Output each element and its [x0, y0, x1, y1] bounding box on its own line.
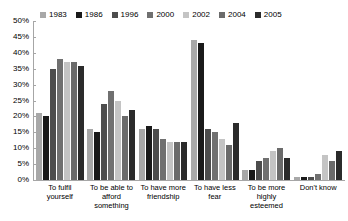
- y-axis-tick-label: 5%: [0, 160, 29, 168]
- bar[interactable]: [277, 148, 283, 180]
- bar[interactable]: [294, 177, 300, 180]
- bar[interactable]: [160, 139, 166, 180]
- legend-item-label: 2004: [228, 11, 246, 19]
- bars-layer: [34, 21, 344, 180]
- legend-swatch-icon: [219, 12, 225, 18]
- bar[interactable]: [191, 40, 197, 180]
- chart-legend: 1983198619962000200220042005: [40, 9, 340, 21]
- bar-group: [137, 21, 189, 180]
- bar[interactable]: [308, 177, 314, 180]
- bar[interactable]: [181, 142, 187, 180]
- bar[interactable]: [129, 110, 135, 180]
- legend-swatch-icon: [183, 12, 189, 18]
- legend-item[interactable]: 2004: [219, 11, 246, 19]
- bar[interactable]: [87, 129, 93, 180]
- legend-item-label: 2005: [264, 11, 282, 19]
- bar[interactable]: [270, 151, 276, 180]
- bar[interactable]: [146, 126, 152, 180]
- bar[interactable]: [219, 139, 225, 180]
- bar[interactable]: [284, 158, 290, 180]
- bar[interactable]: [242, 170, 248, 180]
- bar[interactable]: [57, 59, 63, 180]
- x-axis-category-label: To have more friendship: [137, 183, 189, 201]
- y-axis-tick-label: 15%: [0, 128, 29, 136]
- bar[interactable]: [249, 170, 255, 180]
- bar[interactable]: [212, 132, 218, 180]
- bar[interactable]: [263, 158, 269, 180]
- bar-group: [189, 21, 241, 180]
- bar-group: [292, 21, 344, 180]
- bar[interactable]: [167, 142, 173, 180]
- bar[interactable]: [174, 142, 180, 180]
- bar[interactable]: [101, 104, 107, 180]
- legend-item[interactable]: 2005: [255, 11, 282, 19]
- y-axis-tick-label: 20%: [0, 112, 29, 120]
- x-axis: To fulfil yourselfTo be able to afford s…: [34, 183, 344, 221]
- bar-chart: 1983198619962000200220042005 50%45%40%35…: [0, 0, 348, 221]
- legend-swatch-icon: [40, 12, 46, 18]
- bar[interactable]: [205, 129, 211, 180]
- legend-swatch-icon: [76, 12, 82, 18]
- bar[interactable]: [71, 62, 77, 180]
- y-axis: 50%45%40%35%30%25%20%15%10%5%0%: [0, 16, 29, 186]
- y-axis-tick-label: 30%: [0, 81, 29, 89]
- legend-swatch-icon: [255, 12, 261, 18]
- legend-item-label: 2000: [156, 11, 174, 19]
- bar-group: [241, 21, 293, 180]
- bar[interactable]: [108, 91, 114, 180]
- legend-item[interactable]: 2002: [183, 11, 210, 19]
- bar[interactable]: [94, 132, 100, 180]
- bar[interactable]: [301, 177, 307, 180]
- bar[interactable]: [36, 113, 42, 180]
- bar[interactable]: [64, 62, 70, 180]
- y-axis-tick-label: 25%: [0, 97, 29, 105]
- y-axis-tick-label: 50%: [0, 17, 29, 25]
- legend-item[interactable]: 1983: [40, 11, 67, 19]
- bar[interactable]: [329, 161, 335, 180]
- legend-item-label: 2002: [192, 11, 210, 19]
- x-axis-category-label: To fulfil yourself: [34, 183, 86, 201]
- bar[interactable]: [315, 174, 321, 180]
- legend-item-label: 1986: [85, 11, 103, 19]
- bar[interactable]: [256, 161, 262, 180]
- y-axis-tick-label: 35%: [0, 65, 29, 73]
- x-axis-category-label: To have less fear: [189, 183, 241, 201]
- legend-item[interactable]: 2000: [147, 11, 174, 19]
- y-axis-tick-label: 40%: [0, 49, 29, 57]
- bar[interactable]: [78, 66, 84, 180]
- x-axis-category-label: Don't know: [292, 183, 344, 192]
- legend-swatch-icon: [112, 12, 118, 18]
- y-axis-tick-label: 10%: [0, 144, 29, 152]
- bar[interactable]: [233, 123, 239, 180]
- bar[interactable]: [322, 155, 328, 180]
- legend-item-label: 1983: [49, 11, 67, 19]
- x-axis-category-label: To be more highly esteemed: [241, 183, 293, 210]
- y-axis-tick-label: 0%: [0, 176, 29, 184]
- legend-item-label: 1996: [121, 11, 139, 19]
- bar[interactable]: [115, 101, 121, 181]
- bar-group: [34, 21, 86, 180]
- bar[interactable]: [336, 151, 342, 180]
- bar[interactable]: [198, 43, 204, 180]
- legend-item[interactable]: 1996: [112, 11, 139, 19]
- bar-group: [86, 21, 138, 180]
- bar[interactable]: [153, 129, 159, 180]
- x-axis-category-label: To be able to afford something: [86, 183, 138, 210]
- legend-swatch-icon: [147, 12, 153, 18]
- bar[interactable]: [50, 69, 56, 180]
- bar[interactable]: [139, 129, 145, 180]
- legend-item[interactable]: 1986: [76, 11, 103, 19]
- bar[interactable]: [226, 145, 232, 180]
- bar[interactable]: [43, 116, 49, 180]
- y-axis-tick-label: 45%: [0, 33, 29, 41]
- bar[interactable]: [122, 116, 128, 180]
